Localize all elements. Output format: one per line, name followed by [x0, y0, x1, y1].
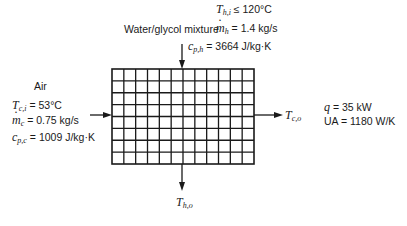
hot-mass-flow: mh = 1.4 kg/s: [216, 22, 277, 38]
cold-outlet-temp: Tc,o: [285, 109, 301, 125]
cold-specific-heat: cp,c = 1009 J/kg·K: [12, 131, 95, 147]
hot-stream-label: Water/glycol mixture: [124, 23, 219, 35]
exchanger-core-grid: [112, 69, 254, 164]
heat-rate: q = 35 kW: [324, 101, 372, 113]
cold-outlet-arrow: [254, 112, 283, 118]
hot-inlet-arrow: [179, 44, 185, 69]
cold-inlet-arrow: [90, 112, 112, 118]
hot-inlet-temp: Th,i ≤ 120°C: [216, 3, 272, 19]
cold-mass-flow: mc = 0.75 kg/s: [12, 114, 79, 130]
hot-outlet-arrow: [179, 164, 185, 191]
hot-specific-heat: cp,h = 3664 J/kg·K: [188, 40, 271, 56]
ua-value: UA = 1180 W/K: [324, 115, 395, 127]
cold-stream-label: Air: [34, 80, 47, 92]
hot-outlet-temp: Th,o: [176, 196, 193, 212]
